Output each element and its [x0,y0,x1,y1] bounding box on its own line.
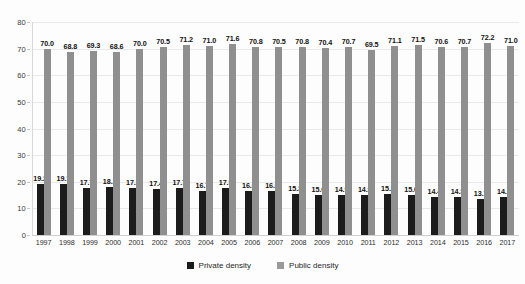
bar-value-label: 70.8 [249,37,263,46]
x-axis-tick-label: 2003 [171,238,194,250]
x-axis-tick-label: 2000 [102,238,125,250]
bar-private-density[interactable]: 14.2 [500,197,507,235]
x-axis-tick-label: 1999 [78,238,101,250]
bar-private-density[interactable]: 14.3 [454,197,461,235]
bar-public-density[interactable]: 71.2 [183,45,190,235]
bar-private-density[interactable]: 13.7 [477,199,484,235]
bar-group: 14.969.5 [357,22,380,235]
x-axis-tick-label: 1998 [55,238,78,250]
bar-group: 19.270.0 [32,22,55,235]
x-axis-tick-label: 2002 [148,238,171,250]
gridline [32,235,519,236]
bar-group: 16.670.8 [241,22,264,235]
bar-value-label: 70.7 [458,37,472,46]
bar-value-label: 70.7 [342,37,356,46]
bar-public-density[interactable]: 69.5 [368,50,375,235]
x-axis-tick-label: 2004 [194,238,217,250]
bar-value-label: 70.0 [40,39,54,48]
bar-private-density[interactable]: 17.5 [222,188,229,235]
bar-value-label: 70.0 [133,39,147,48]
y-axis-tick-label: 0 [22,231,26,240]
bar-public-density[interactable]: 70.8 [299,47,306,236]
bar-value-label: 72.2 [481,33,495,42]
y-axis-tick-label: 20 [17,177,26,186]
x-axis-tick-label: 2006 [241,238,264,250]
plot-area: 19.270.019.168.817.769.318.168.617.570.0… [32,22,519,235]
bar-public-density[interactable]: 70.7 [345,47,352,235]
bar-value-label: 69.5 [365,40,379,49]
bar-group: 15.070.4 [310,22,333,235]
bar-public-density[interactable]: 71.1 [391,46,398,235]
y-axis-tick-label: 50 [17,97,26,106]
bar-value-label: 70.8 [295,37,309,46]
y-axis-tick-label: 60 [17,71,26,80]
bar-private-density[interactable]: 14.9 [338,195,345,235]
bar-public-density[interactable]: 70.5 [275,47,282,235]
bar-value-label: 71.1 [388,36,402,45]
bar-private-density[interactable]: 19.2 [37,184,44,235]
bar-public-density[interactable]: 70.6 [438,47,445,235]
bar-private-density[interactable]: 14.9 [361,195,368,235]
bar-group: 16.670.5 [264,22,287,235]
chart-legend: Private densityPublic density [0,261,525,270]
bar-value-label: 69.3 [87,41,101,50]
bar-value-label: 68.8 [63,42,77,51]
y-axis-tick-mark [27,235,30,236]
x-axis-labels: 1997199819992000200120022003200420052006… [32,238,519,250]
bar-group: 17.769.3 [78,22,101,235]
y-axis-tick-label: 70 [17,44,26,53]
legend-item-public-density[interactable]: Public density [277,261,338,270]
bar-public-density[interactable]: 68.6 [113,52,120,235]
y-axis-tick-mark [27,102,30,103]
bar-private-density[interactable]: 14.4 [431,197,438,235]
bar-group: 16.771.0 [194,22,217,235]
bar-private-density[interactable]: 17.7 [176,188,183,235]
x-axis-tick-label: 2011 [357,238,380,250]
bar-private-density[interactable]: 17.5 [129,188,136,235]
bar-public-density[interactable]: 71.0 [206,46,213,235]
bar-public-density[interactable]: 70.0 [44,49,51,235]
bar-private-density[interactable]: 15.0 [315,195,322,235]
y-axis: 01020304050607080 [0,22,30,235]
bar-private-density[interactable]: 16.6 [245,191,252,235]
y-axis-tick-label: 40 [17,124,26,133]
bar-public-density[interactable]: 70.8 [252,47,259,236]
bar-private-density[interactable]: 15.3 [292,194,299,235]
bar-public-density[interactable]: 72.2 [484,43,491,235]
bar-group: 14.470.6 [426,22,449,235]
x-axis-tick-label: 2005 [218,238,241,250]
bar-private-density[interactable]: 17.4 [153,189,160,235]
y-axis-tick-label: 10 [17,204,26,213]
bar-private-density[interactable]: 19.1 [60,184,67,235]
bar-public-density[interactable]: 68.8 [67,52,74,235]
bar-value-label: 71.5 [411,35,425,44]
bar-private-density[interactable]: 18.1 [106,187,113,235]
y-axis-tick-label: 30 [17,151,26,160]
bar-public-density[interactable]: 70.5 [160,47,167,235]
bar-group: 17.570.0 [125,22,148,235]
bar-public-density[interactable]: 71.6 [229,44,236,235]
legend-item-private-density[interactable]: Private density [187,261,251,270]
bar-private-density[interactable]: 16.7 [199,191,206,235]
bar-group: 14.970.7 [333,22,356,235]
x-axis-tick-label: 2014 [426,238,449,250]
x-axis-tick-label: 1997 [32,238,55,250]
bar-value-label: 71.2 [179,35,193,44]
bar-private-density[interactable]: 15.0 [408,195,415,235]
x-axis-tick-label: 2015 [449,238,472,250]
bar-public-density[interactable]: 71.5 [415,45,422,235]
y-axis-tick-mark [27,75,30,76]
bar-public-density[interactable]: 70.4 [322,48,329,235]
bar-value-label: 71.0 [203,36,217,45]
bar-private-density[interactable]: 17.7 [83,188,90,235]
bar-chart: 01020304050607080 19.270.019.168.817.769… [0,0,525,284]
bar-private-density[interactable]: 16.6 [268,191,275,235]
y-axis-tick-mark [27,22,30,23]
bar-private-density[interactable]: 15.3 [384,194,391,235]
bar-public-density[interactable]: 70.7 [461,47,468,235]
bar-public-density[interactable]: 70.0 [136,49,143,235]
bar-public-density[interactable]: 69.3 [90,51,97,236]
bar-group: 17.470.5 [148,22,171,235]
bar-group: 17.571.6 [218,22,241,235]
bar-public-density[interactable]: 71.0 [507,46,514,235]
